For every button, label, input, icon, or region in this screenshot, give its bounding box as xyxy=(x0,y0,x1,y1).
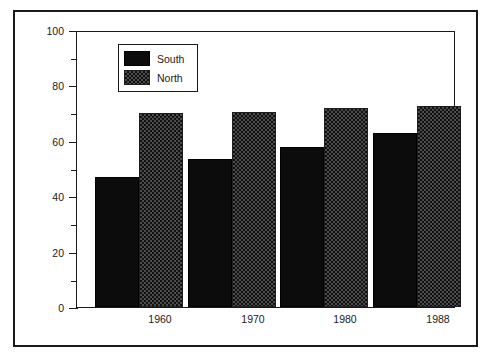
x-tick-label-1980: 1980 xyxy=(300,313,390,325)
legend-swatch-south-icon xyxy=(124,51,150,66)
y-tick-label-0: 0 xyxy=(24,303,64,314)
bar-north-1960[interactable] xyxy=(139,113,183,307)
y-tick-major-0 xyxy=(69,308,78,309)
y-tick-label-20: 20 xyxy=(24,248,64,259)
bar-north-1988[interactable] xyxy=(417,106,461,307)
chart-figure: Life Expectancy at Birth 100 80 60 40 20… xyxy=(0,0,493,364)
y-tick-label-40: 40 xyxy=(24,192,64,203)
legend-entry-north[interactable]: North xyxy=(124,68,192,87)
legend-entry-south[interactable]: South xyxy=(124,49,192,68)
x-tick-label-1988: 1988 xyxy=(393,313,483,325)
bar-south-1980[interactable] xyxy=(280,147,324,307)
bar-south-1970[interactable] xyxy=(188,159,232,307)
x-tick-label-1970: 1970 xyxy=(208,313,298,325)
bar-north-1980[interactable] xyxy=(324,108,368,307)
chart-legend: South North xyxy=(118,44,198,92)
legend-label-north: North xyxy=(157,72,183,84)
bar-south-1960[interactable] xyxy=(95,177,139,307)
y-tick-label-60: 60 xyxy=(24,137,64,148)
bar-south-1988[interactable] xyxy=(373,133,417,307)
y-tick-label-100: 100 xyxy=(24,26,64,37)
legend-label-south: South xyxy=(157,53,184,65)
x-tick-label-1960: 1960 xyxy=(115,313,205,325)
bar-north-1970[interactable] xyxy=(232,112,276,307)
legend-swatch-north-icon xyxy=(124,70,150,85)
y-tick-label-80: 80 xyxy=(24,81,64,92)
